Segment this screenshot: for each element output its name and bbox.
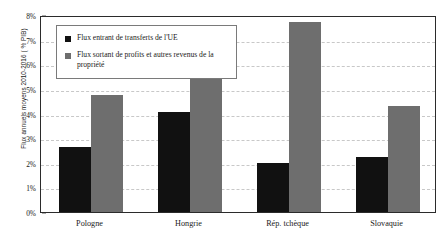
- chart-legend: Flux entrant de transferts de l'UE Flux …: [56, 25, 237, 79]
- bar: [59, 147, 91, 212]
- legend-label-inflow: Flux entrant de transferts de l'UE: [77, 33, 178, 43]
- bar-group: [338, 17, 437, 212]
- bar-group: [239, 17, 338, 212]
- x-tick-label: Hongrie: [175, 219, 202, 228]
- y-tick-label: 8%: [26, 12, 36, 21]
- legend-swatch-icon-outflow: [65, 53, 71, 59]
- y-tick-label: 0%: [26, 209, 36, 218]
- y-tick-label: 6%: [26, 61, 36, 70]
- bar-chart: Flux annuels moyens 2010-2016 ( % PIB) 0…: [0, 0, 446, 247]
- legend-label-outflow: Flux sortant de profits et autres revenu…: [77, 50, 227, 70]
- y-axis-tick-labels: 0%1%2%3%4%5%6%7%8%: [6, 16, 36, 213]
- plot-area: Flux entrant de transferts de l'UE Flux …: [40, 16, 436, 213]
- y-tick-label: 2%: [26, 159, 36, 168]
- y-tick-label: 1%: [26, 184, 36, 193]
- y-tick-label: 4%: [26, 110, 36, 119]
- bar: [257, 163, 289, 212]
- y-tick-label: 5%: [26, 85, 36, 94]
- x-axis-tick-labels: PologneHongrieRép. tchèqueSlovaquie: [40, 219, 436, 239]
- legend-swatch-icon-inflow: [65, 36, 71, 42]
- bar: [91, 95, 123, 212]
- y-tick-label: 7%: [26, 36, 36, 45]
- x-tick-label: Slovaquie: [370, 219, 403, 228]
- legend-item-outflow: Flux sortant de profits et autres revenu…: [65, 50, 227, 70]
- bar: [388, 106, 420, 212]
- x-tick-label: Rép. tchèque: [266, 219, 309, 228]
- bar: [158, 112, 190, 212]
- y-tick-label: 3%: [26, 135, 36, 144]
- bar: [289, 22, 321, 212]
- bar: [356, 157, 388, 212]
- legend-item-inflow: Flux entrant de transferts de l'UE: [65, 33, 227, 43]
- x-tick-label: Pologne: [76, 219, 103, 228]
